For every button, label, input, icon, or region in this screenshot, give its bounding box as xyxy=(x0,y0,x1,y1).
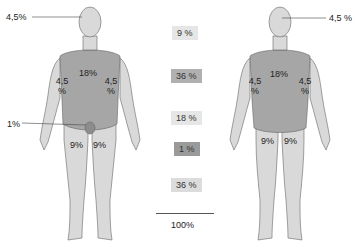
back-head-label: 4,5 % xyxy=(329,14,352,23)
back-left-arm-label: 4,5 % xyxy=(248,76,262,96)
back-left-leg-label: 9% xyxy=(261,137,274,146)
front-left-arm-value: 4,5 xyxy=(55,76,69,86)
back-left-arm-unit: % xyxy=(248,86,262,96)
summary-head-box: 9 % xyxy=(172,26,198,40)
back-right-arm-label: 4,5 % xyxy=(298,76,312,96)
back-right-arm-unit: % xyxy=(298,86,312,96)
back-body xyxy=(230,7,330,240)
summary-divider xyxy=(156,213,214,214)
back-trunk-label: 18% xyxy=(270,70,288,79)
front-left-arm-unit: % xyxy=(55,86,69,96)
back-right-leg-label: 9% xyxy=(284,137,297,146)
summary-total: 100% xyxy=(171,221,194,230)
summary-genital-box: 1 % xyxy=(174,142,200,156)
summary-legs-box: 36 % xyxy=(171,178,202,192)
front-right-arm-unit: % xyxy=(104,86,118,96)
back-left-arm-value: 4,5 xyxy=(248,76,262,86)
summary-arms-box: 18 % xyxy=(171,111,202,125)
front-right-arm-label: 4,5 % xyxy=(104,76,118,96)
front-genital-label: 1% xyxy=(7,120,20,129)
front-left-arm-label: 4,5 % xyxy=(55,76,69,96)
front-right-arm-value: 4,5 xyxy=(104,76,118,86)
front-left-leg-label: 9% xyxy=(70,141,83,150)
front-trunk-label: 18% xyxy=(79,69,97,78)
summary-trunk-box: 36 % xyxy=(171,69,202,83)
back-right-arm-value: 4,5 xyxy=(298,76,312,86)
front-head-label: 4,5% xyxy=(6,13,27,22)
front-right-leg-label: 9% xyxy=(93,141,106,150)
front-body xyxy=(40,7,140,240)
